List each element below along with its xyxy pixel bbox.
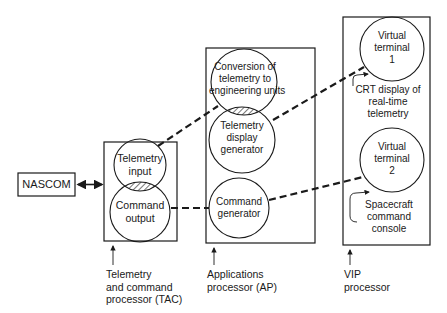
tac-caption: Telemetry and command processor (TAC)	[106, 268, 182, 306]
virtual-terminal-1-label: Virtual terminal 1	[362, 30, 422, 66]
telemetry-input-label: Telemetry input	[110, 152, 170, 177]
conversion-label: Conversion of telemetry to engineering u…	[209, 61, 281, 97]
virtual-terminal-2-label: Virtual terminal 2	[362, 141, 422, 177]
command-generator-label: Command generator	[209, 196, 269, 220]
telemetry-display-label: Telemetry display generator	[212, 120, 272, 156]
nascom-label: NASCOM	[18, 178, 75, 191]
command-output-label: Command output	[110, 199, 170, 224]
command-generator-to-vt2-link	[269, 177, 363, 200]
spacecraft-console-note: Spacecraft command console	[354, 199, 424, 235]
crt-display-note: CRT display of real-time telemetry	[346, 84, 430, 120]
ap-caption: Applications processor (AP)	[207, 268, 277, 293]
vip-caption: VIP processor	[344, 268, 390, 293]
